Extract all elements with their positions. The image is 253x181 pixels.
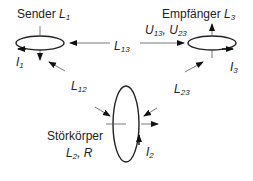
receiver-name: Empfänger <box>162 7 221 21</box>
i3-index: 3 <box>233 66 237 75</box>
receiver-label: Empfänger L3 <box>162 8 235 22</box>
resistance-symbol: , R <box>77 146 92 160</box>
u13-index: 13 <box>154 29 163 38</box>
current-i1: I1 <box>16 56 24 70</box>
sender-loop-icon <box>16 26 64 60</box>
sender-label: Sender L1 <box>17 8 70 22</box>
l12-index: 12 <box>78 85 87 94</box>
u23-index: 23 <box>178 29 187 38</box>
l2-symbol: L <box>66 146 73 160</box>
i1-index: 1 <box>19 61 23 70</box>
disturber-name: Störkörper <box>47 130 103 142</box>
current-i2: I2 <box>146 146 154 160</box>
receiver-index: 3 <box>231 13 235 22</box>
receiver-loop-icon <box>188 24 236 58</box>
disturber-symbols: L2, R <box>66 147 92 161</box>
u23-symbol: U <box>169 23 178 37</box>
receiver-symbol: L <box>224 7 231 21</box>
coupling-l13: L13 <box>114 40 130 54</box>
l13-symbol: L <box>114 39 121 53</box>
current-i3: I3 <box>230 61 238 75</box>
l13-index: 13 <box>121 45 130 54</box>
l23-index: 23 <box>181 88 190 97</box>
sender-index: 1 <box>66 13 70 22</box>
i2-index: 2 <box>149 151 153 160</box>
voltage-label: U13, U23 <box>145 24 187 38</box>
sender-symbol: L <box>59 7 66 21</box>
diagram-graphics <box>0 0 253 181</box>
coupling-l23: L23 <box>174 83 190 97</box>
sender-name: Sender <box>17 7 56 21</box>
l12-symbol: L <box>71 79 78 93</box>
coupling-l12: L12 <box>71 80 87 94</box>
u13-symbol: U <box>145 23 154 37</box>
l23-symbol: L <box>174 82 181 96</box>
